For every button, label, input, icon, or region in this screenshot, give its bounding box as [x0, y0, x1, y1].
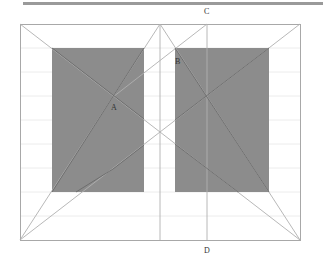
label-d: D	[204, 247, 210, 255]
diagram-canvas	[0, 0, 323, 261]
label-c: C	[204, 8, 209, 16]
label-a: A	[111, 104, 117, 112]
label-b: B	[175, 58, 180, 66]
